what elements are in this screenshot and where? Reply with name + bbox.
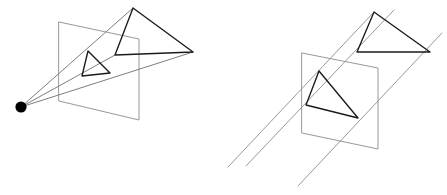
projection-ray <box>246 10 394 166</box>
object-triangle <box>115 8 193 55</box>
image-plane <box>59 22 139 120</box>
projected-triangle <box>82 51 110 76</box>
projection-figure <box>0 0 447 195</box>
perspective-projection-diagram <box>15 8 193 120</box>
projection-ray <box>21 52 193 107</box>
center-of-projection-dot <box>15 101 26 112</box>
projection-ray <box>298 33 442 186</box>
projection-ray <box>21 8 133 107</box>
projection-rays <box>228 10 442 186</box>
parallel-projection-diagram <box>228 10 442 186</box>
figure-canvas <box>0 0 447 195</box>
projection-rays <box>21 8 193 107</box>
